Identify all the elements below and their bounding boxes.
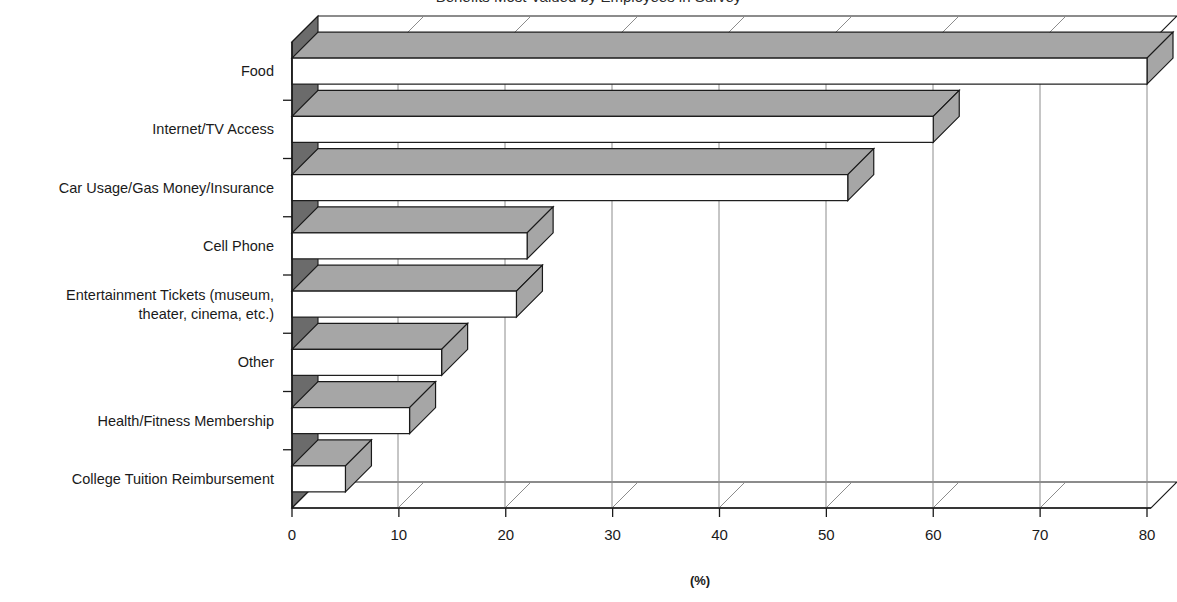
- bar-front-face: [292, 116, 933, 142]
- category-label: Car Usage/Gas Money/Insurance: [59, 180, 274, 196]
- category-label: College Tuition Reimbursement: [72, 471, 274, 487]
- bar-front-face: [292, 466, 345, 492]
- value-tick-label: 20: [497, 526, 514, 543]
- bar: [292, 149, 874, 201]
- chart-title-clipped: Benefits Most Valued by Employees in Sur…: [0, 0, 1177, 9]
- value-tick-label: 30: [604, 526, 621, 543]
- bar-top-face: [292, 32, 1173, 58]
- category-label: Cell Phone: [203, 238, 274, 254]
- bar: [292, 32, 1173, 84]
- bar: [292, 207, 553, 259]
- bar-chart: Benefits Most Valued by Employees in Sur…: [0, 0, 1177, 602]
- chart-canvas: FoodInternet/TV AccessCar Usage/Gas Mone…: [0, 0, 1177, 602]
- bar-front-face: [292, 291, 516, 317]
- x-axis-title: (%): [690, 573, 710, 588]
- bar-front-face: [292, 233, 527, 259]
- category-label: Health/Fitness Membership: [98, 413, 275, 429]
- bar-front-face: [292, 58, 1147, 84]
- bar: [292, 382, 436, 434]
- bar: [292, 265, 542, 317]
- value-tick-label: 60: [925, 526, 942, 543]
- bar: [292, 323, 468, 375]
- category-label: Entertainment Tickets (museum,: [66, 287, 274, 303]
- bar-front-face: [292, 175, 848, 201]
- bar-top-face: [292, 90, 959, 116]
- chart-title-text: Benefits Most Valued by Employees in Sur…: [0, 0, 1177, 5]
- category-label: Food: [241, 63, 274, 79]
- value-tick-label: 10: [391, 526, 408, 543]
- bar-front-face: [292, 408, 410, 434]
- category-label: theater, cinema, etc.): [139, 306, 274, 322]
- value-tick-label: 50: [818, 526, 835, 543]
- bar: [292, 90, 959, 142]
- category-label: Other: [238, 354, 274, 370]
- category-label: Internet/TV Access: [152, 121, 274, 137]
- value-tick-label: 80: [1139, 526, 1156, 543]
- bar-front-face: [292, 349, 442, 375]
- bar-top-face: [292, 265, 542, 291]
- bar-top-face: [292, 149, 874, 175]
- value-tick-label: 40: [711, 526, 728, 543]
- bar-top-face: [292, 207, 553, 233]
- bar-top-face: [292, 323, 468, 349]
- value-tick-label: 70: [1032, 526, 1049, 543]
- value-tick-label: 0: [288, 526, 296, 543]
